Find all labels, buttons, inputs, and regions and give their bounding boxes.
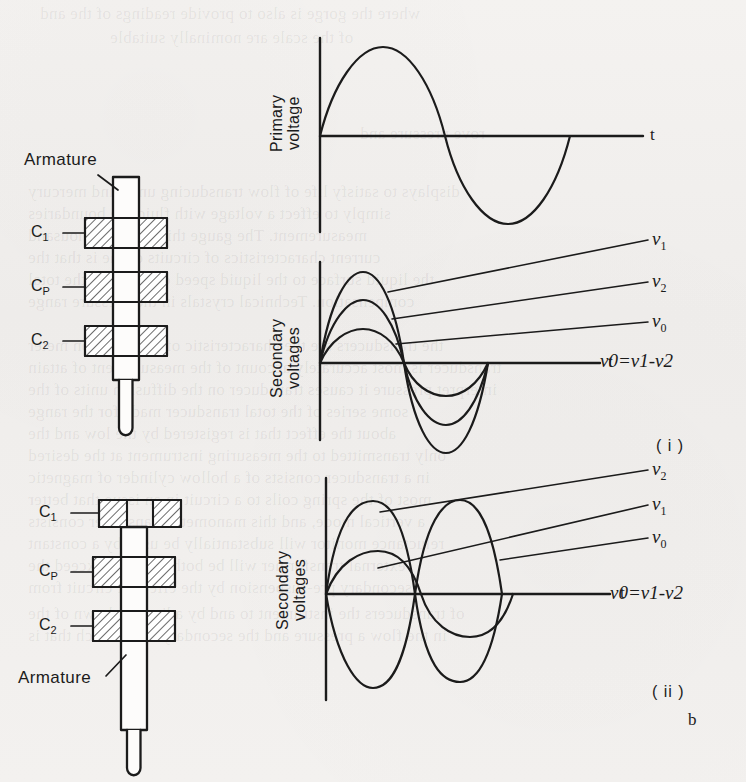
leader-v0	[500, 538, 648, 560]
plot-primary-voltage	[320, 38, 643, 232]
leader-v2	[392, 282, 648, 319]
leader-v0	[396, 322, 648, 344]
ylabel-primary-voltage: Primaryvoltage	[268, 62, 302, 184]
coil-label-c2-diagram-1: C2	[31, 331, 49, 351]
equation-plot-ii: ν0=ν1-ν2	[610, 582, 683, 604]
leader-v2	[380, 470, 648, 512]
coil-label-cp-diagram-2: CP	[39, 562, 58, 582]
ylabel-secondary-centered: Secondaryvoltages	[268, 288, 302, 428]
leader-v1	[388, 240, 648, 292]
panel-label-i: ( i )	[656, 437, 684, 455]
equation-plot-i: ν0=ν1-ν2	[600, 350, 673, 372]
armature-label-diagram-2: Armature	[18, 668, 91, 688]
figure-artwork	[0, 0, 746, 782]
series-label-v1-plot-ii: ν1	[652, 493, 666, 519]
panel-label-ii: ( ii )	[652, 683, 685, 701]
lvdt-diagram-centered	[63, 175, 167, 435]
armature-label-diagram-1: Armature	[24, 150, 97, 170]
series-label-v2-plot-ii: ν2	[652, 458, 666, 484]
series-label-v0-plot-ii: ν0	[652, 526, 666, 552]
lvdt-diagram-displaced	[71, 500, 181, 775]
ylabel-secondary-displaced: Secondaryvoltages	[274, 520, 308, 660]
series-label-v2-plot-i: ν2	[652, 270, 666, 296]
figure-label-b: b	[688, 710, 697, 730]
curve-v2	[326, 501, 502, 682]
coil-label-c1-diagram-2: C1	[39, 503, 57, 523]
series-label-v1-plot-i: ν1	[652, 228, 666, 254]
coil-label-cp-diagram-1: CP	[31, 277, 50, 297]
xlabel-primary-voltage: t	[650, 125, 655, 145]
coil-label-c2-diagram-2: C2	[39, 616, 57, 636]
series-label-v0-plot-i: ν0	[652, 310, 666, 336]
plot-secondary-displaced	[326, 470, 648, 700]
plot-secondary-centered	[320, 240, 648, 453]
coil-label-c1-diagram-1: C1	[31, 223, 49, 243]
